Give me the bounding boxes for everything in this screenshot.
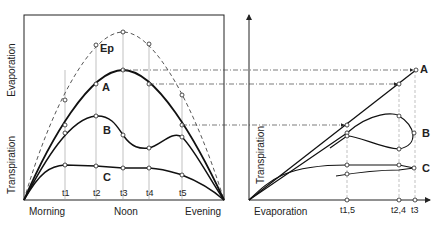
transpiration-diagram: Evaporation Transpiration Morning Noon E… — [0, 0, 443, 229]
svg-text:Evaporation: Evaporation — [6, 43, 17, 96]
svg-text:Transpiration: Transpiration — [255, 126, 266, 184]
svg-text:Ep: Ep — [100, 42, 114, 54]
svg-text:Noon: Noon — [114, 206, 138, 217]
svg-text:Transpiration: Transpiration — [6, 136, 17, 194]
svg-text:A: A — [420, 63, 428, 75]
svg-text:t2: t2 — [93, 188, 101, 198]
svg-text:t3: t3 — [120, 188, 128, 198]
svg-text:t1,5: t1,5 — [340, 205, 355, 215]
svg-text:B: B — [422, 127, 430, 139]
svg-text:B: B — [103, 124, 111, 136]
svg-text:t1: t1 — [62, 188, 70, 198]
svg-text:t2,4: t2,4 — [391, 205, 406, 215]
svg-text:Evening: Evening — [185, 206, 221, 217]
svg-text:t4: t4 — [146, 188, 154, 198]
right-panel — [249, 15, 430, 202]
svg-text:C: C — [103, 171, 111, 183]
svg-text:Morning: Morning — [29, 206, 65, 217]
svg-text:Evaporation: Evaporation — [254, 206, 307, 217]
svg-text:C: C — [422, 162, 430, 174]
svg-text:A: A — [102, 81, 110, 93]
left-panel — [24, 15, 224, 200]
svg-text:t3: t3 — [411, 205, 419, 215]
svg-text:t5: t5 — [179, 188, 187, 198]
